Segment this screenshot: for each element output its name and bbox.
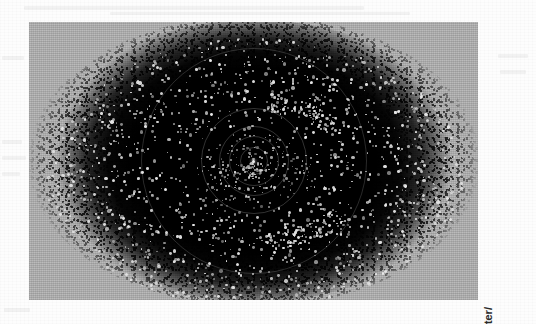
asteroid-dot xyxy=(210,73,213,76)
asteroid-dot xyxy=(273,210,275,212)
asteroid-dot xyxy=(306,63,308,65)
asteroid-dot xyxy=(451,190,454,193)
asteroid-dot xyxy=(106,266,109,269)
asteroid-dot xyxy=(288,214,290,216)
asteroid-dot xyxy=(314,46,316,48)
asteroid-dot xyxy=(268,290,271,293)
asteroid-dot xyxy=(74,139,76,141)
asteroid-dot xyxy=(199,126,201,128)
asteroid-dot xyxy=(351,181,352,182)
asteroid-dot xyxy=(265,41,268,44)
asteroid-dot xyxy=(125,184,127,186)
asteroid-dot xyxy=(210,82,212,84)
asteroid-dot xyxy=(150,209,153,212)
asteroid-dot xyxy=(147,108,149,110)
asteroid-dot xyxy=(231,286,234,289)
asteroid-dot xyxy=(293,263,294,264)
asteroid-dot xyxy=(414,163,416,165)
asteroid-dot xyxy=(338,132,341,135)
asteroid-dot xyxy=(159,67,162,70)
asteroid-dot xyxy=(379,254,381,256)
asteroid-dot xyxy=(451,208,454,211)
asteroid-dot xyxy=(346,253,348,255)
asteroid-dot xyxy=(161,172,163,174)
asteroid-dot xyxy=(214,164,216,166)
asteroid-dot xyxy=(149,115,152,118)
asteroid-dot xyxy=(348,264,350,266)
asteroid-dot xyxy=(262,38,264,40)
asteroid-dot xyxy=(397,110,400,113)
asteroid-dot xyxy=(202,138,204,140)
asteroid-dot xyxy=(49,160,52,163)
asteroid-dot xyxy=(151,288,153,290)
asteroid-dot xyxy=(219,144,221,146)
asteroid-dot xyxy=(437,142,440,145)
asteroid-dot xyxy=(332,209,334,211)
asteroid-dot xyxy=(243,128,245,130)
asteroid-dot xyxy=(206,213,208,215)
asteroid-dot xyxy=(85,145,87,147)
asteroid-dot xyxy=(396,186,398,188)
asteroid-dot xyxy=(106,105,109,108)
asteroid-dot xyxy=(346,236,348,238)
asteroid-dot xyxy=(348,204,349,205)
asteroid-dot xyxy=(316,161,319,164)
asteroid-dot xyxy=(255,176,256,177)
asteroid-dot xyxy=(389,203,391,205)
asteroid-dot xyxy=(314,178,316,180)
asteroid-dot xyxy=(385,203,388,206)
asteroid-dot xyxy=(98,250,101,253)
asteroid-dot xyxy=(305,236,307,238)
asteroid-dot xyxy=(78,230,79,231)
asteroid-dot xyxy=(219,171,221,173)
asteroid-dot xyxy=(386,184,388,186)
asteroid-dot xyxy=(283,107,285,109)
asteroid-dot xyxy=(277,98,279,100)
asteroid-dot xyxy=(112,240,115,243)
asteroid-dot xyxy=(290,259,293,262)
asteroid-dot xyxy=(150,241,151,242)
asteroid-dot xyxy=(253,198,255,200)
asteroid-dot xyxy=(384,270,387,273)
asteroid-dot xyxy=(256,146,259,149)
asteroid-dot xyxy=(141,248,143,250)
asteroid-dot xyxy=(284,112,287,115)
asteroid-dot xyxy=(76,171,78,173)
asteroid-dot xyxy=(282,153,283,154)
asteroid-dot xyxy=(406,165,408,167)
asteroid-dot xyxy=(136,151,138,153)
asteroid-dot xyxy=(158,100,160,102)
asteroid-dot xyxy=(224,81,226,83)
asteroid-dot xyxy=(331,83,334,86)
asteroid-dot xyxy=(97,257,99,259)
asteroid-dot xyxy=(261,157,263,159)
asteroid-dot xyxy=(326,64,329,67)
asteroid-dot xyxy=(270,162,271,163)
asteroid-dot xyxy=(132,236,133,237)
asteroid-dot xyxy=(334,117,336,119)
asteroid-dot xyxy=(186,144,189,147)
asteroid-dot xyxy=(240,274,243,277)
asteroid-dot xyxy=(285,100,288,103)
asteroid-dot xyxy=(243,50,245,52)
asteroid-dot xyxy=(217,200,218,201)
asteroid-dot xyxy=(333,220,335,222)
asteroid-dot xyxy=(296,127,299,130)
asteroid-dot xyxy=(191,94,194,97)
asteroid-dot xyxy=(92,165,93,166)
asteroid-dot xyxy=(101,127,103,129)
asteroid-dot xyxy=(263,187,265,189)
asteroid-dot xyxy=(151,72,154,75)
asteroid-dot xyxy=(322,208,324,210)
asteroid-dot xyxy=(255,56,257,58)
asteroid-dot xyxy=(151,225,153,227)
asteroid-dot xyxy=(330,164,333,167)
asteroid-dot xyxy=(93,150,96,153)
asteroid-dot xyxy=(205,230,207,232)
asteroid-dot xyxy=(177,131,179,133)
asteroid-dot xyxy=(251,281,253,283)
asteroid-dot xyxy=(65,179,67,181)
asteroid-dot xyxy=(114,110,116,112)
asteroid-dot xyxy=(347,162,348,163)
asteroid-dot xyxy=(183,54,186,57)
